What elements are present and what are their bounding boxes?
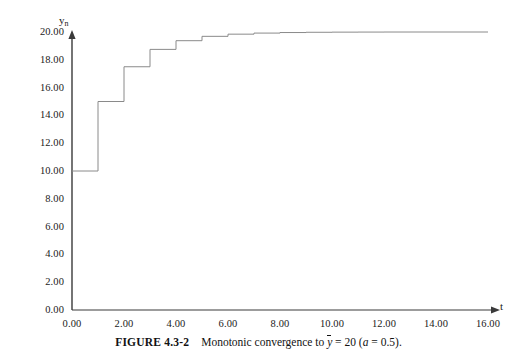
figure-page: 0.002.004.006.008.0010.0012.0014.0016.00… xyxy=(0,0,517,361)
y-tick-label: 16.00 xyxy=(18,82,64,93)
x-tick-label: 14.00 xyxy=(406,318,466,329)
chart-figure: 0.002.004.006.008.0010.0012.0014.0016.00… xyxy=(0,0,517,330)
y-axis-title-subscript: n xyxy=(65,19,69,28)
x-tick-label: 0.00 xyxy=(42,318,102,329)
caption-phrase: Monotonic convergence to xyxy=(201,336,324,348)
chart-canvas xyxy=(0,0,517,330)
y-tick-label: 12.00 xyxy=(18,137,64,148)
chart-series-line xyxy=(72,32,488,171)
caption-parameter-value: = 0.5). xyxy=(371,336,401,348)
chart-axes xyxy=(68,30,500,313)
y-tick-label: 18.00 xyxy=(18,54,64,65)
x-tick-label: 2.00 xyxy=(94,318,154,329)
y-tick-label: 4.00 xyxy=(18,248,64,259)
figure-number: FIGURE 4.3-2 xyxy=(115,336,189,348)
x-tick-label: 16.00 xyxy=(458,318,517,329)
x-tick-label: 6.00 xyxy=(198,318,258,329)
x-tick-label: 4.00 xyxy=(146,318,206,329)
caption-equals-value: = 20 ( xyxy=(335,336,363,348)
figure-caption-text: Monotonic convergence to y = 20 (a = 0.5… xyxy=(201,336,402,348)
x-tick-label: 10.00 xyxy=(302,318,362,329)
y-axis-title: yn xyxy=(59,14,69,28)
caption-parameter-symbol: a xyxy=(363,336,369,348)
y-tick-label: 6.00 xyxy=(18,221,64,232)
x-tick-label: 8.00 xyxy=(250,318,310,329)
y-tick-label: 8.00 xyxy=(18,193,64,204)
y-tick-label: 2.00 xyxy=(18,276,64,287)
y-tick-label: 0.00 xyxy=(18,304,64,315)
x-axis-title: t xyxy=(500,300,503,312)
x-tick-label: 12.00 xyxy=(354,318,414,329)
y-tick-label: 20.00 xyxy=(18,26,64,37)
y-tick-label: 10.00 xyxy=(18,165,64,176)
figure-caption: FIGURE 4.3-2Monotonic convergence to y =… xyxy=(0,336,517,348)
caption-ybar-symbol: y xyxy=(327,336,332,348)
y-tick-label: 14.00 xyxy=(18,109,64,120)
